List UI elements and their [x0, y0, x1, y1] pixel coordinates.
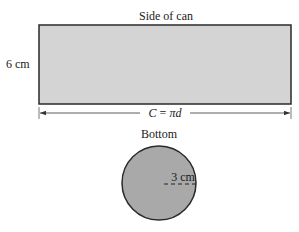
bottom-title: Bottom — [141, 127, 178, 141]
can-net-diagram: Side of can 6 cm C = πd Bottom 3 cm — [0, 0, 299, 232]
radius-label: 3 cm — [171, 170, 195, 184]
side-of-can: Side of can 6 cm C = πd — [6, 9, 291, 120]
circumference-label: C = πd — [149, 106, 183, 120]
bottom-of-can: Bottom 3 cm — [122, 127, 196, 220]
height-label: 6 cm — [6, 57, 30, 71]
side-title: Side of can — [139, 9, 193, 23]
side-rectangle — [39, 25, 291, 104]
